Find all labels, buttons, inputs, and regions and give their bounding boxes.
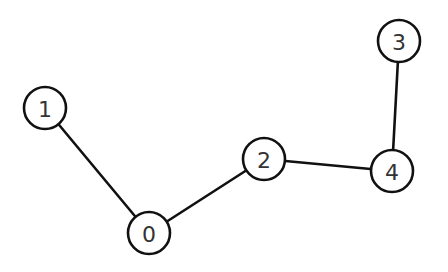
node-0: 0	[128, 212, 170, 254]
edges-layer	[45, 41, 399, 233]
node-3: 3	[378, 20, 420, 62]
node-label: 3	[392, 30, 406, 55]
graph-diagram: 01234	[0, 0, 448, 272]
node-label: 2	[257, 148, 271, 173]
node-1: 1	[24, 87, 66, 129]
edge-1-0	[45, 108, 149, 233]
nodes-layer: 01234	[24, 20, 420, 254]
node-2: 2	[243, 138, 285, 180]
node-label: 1	[38, 97, 52, 122]
node-label: 4	[385, 160, 399, 185]
node-label: 0	[142, 222, 156, 247]
node-4: 4	[371, 150, 413, 192]
